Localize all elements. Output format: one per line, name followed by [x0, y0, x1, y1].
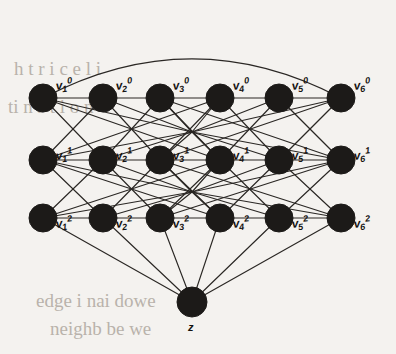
graph-node-v3-2[interactable]: [146, 204, 174, 232]
graph-figure: h t r i c e l i ti n s t i o n edge i na…: [0, 0, 396, 354]
graph-node-v6-2[interactable]: [327, 204, 355, 232]
graph-node-label-v5-2: v52: [291, 212, 310, 233]
graph-node-v1-1[interactable]: [29, 146, 57, 174]
graph-node-label-v5-0: v50: [291, 74, 310, 95]
graph-node-label-v3-1: v31: [172, 144, 191, 165]
graph-node-label-v1-2: v12: [55, 212, 74, 233]
graph-node-v6-1[interactable]: [327, 146, 355, 174]
graph-node-label-v5-1: v51: [291, 144, 310, 165]
graph-node-label-v2-1: v21: [115, 144, 134, 165]
graph-node-label-v4-1: v41: [232, 144, 251, 165]
graph-node-v5-1[interactable]: [265, 146, 293, 174]
graph-node-label-v6-1: v61: [353, 144, 372, 165]
graph-node-label-v1-1: v11: [55, 144, 74, 165]
graph-node-v4-1[interactable]: [206, 146, 234, 174]
graph-node-v3-1[interactable]: [146, 146, 174, 174]
graph-node-v5-0[interactable]: [265, 84, 293, 112]
graph-node-v4-2[interactable]: [206, 204, 234, 232]
graph-node-v4-0[interactable]: [206, 84, 234, 112]
nodes-group: [29, 84, 355, 317]
sink-node-label: z: [188, 321, 194, 333]
graph-canvas: [0, 0, 396, 354]
graph-node-v6-0[interactable]: [327, 84, 355, 112]
graph-node-label-v3-2: v32: [172, 212, 191, 233]
edges-group: [43, 59, 341, 302]
graph-node-v5-2[interactable]: [265, 204, 293, 232]
graph-node-label-v6-0: v60: [353, 74, 372, 95]
graph-node-v2-2[interactable]: [89, 204, 117, 232]
graph-node-label-v4-2: v42: [232, 212, 251, 233]
graph-node-v1-2[interactable]: [29, 204, 57, 232]
graph-node-v3-0[interactable]: [146, 84, 174, 112]
graph-node-z[interactable]: [177, 287, 207, 317]
graph-node-v2-0[interactable]: [89, 84, 117, 112]
graph-node-label-v2-2: v22: [115, 212, 134, 233]
graph-node-v1-0[interactable]: [29, 84, 57, 112]
graph-node-label-v1-0: v10: [55, 74, 74, 95]
graph-node-label-v2-0: v20: [115, 74, 134, 95]
graph-node-v2-1[interactable]: [89, 146, 117, 174]
graph-node-label-v4-0: v40: [232, 74, 251, 95]
graph-node-label-v3-0: v30: [172, 74, 191, 95]
graph-node-label-v6-2: v62: [353, 212, 372, 233]
